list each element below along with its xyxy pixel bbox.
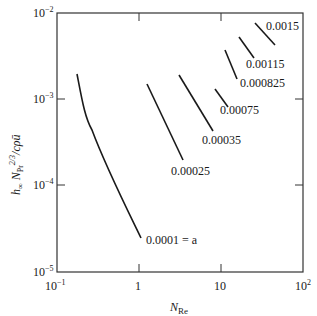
label-a: 0.0001 = a xyxy=(146,233,198,247)
curve-0.000825 xyxy=(225,50,237,79)
svg-text:h∞ NPr2/3/cρū: h∞ NPr2/3/cρū xyxy=(8,135,25,196)
label-0.0015: 0.0015 xyxy=(266,19,299,33)
x-tick-label-1e-1: 10−1 xyxy=(45,278,66,293)
y-tick-label-1e-2: 10−2 xyxy=(33,5,54,20)
x-tick-label-1: 1 xyxy=(135,279,141,293)
label-0.00115: 0.00115 xyxy=(246,57,285,71)
y-tick-label-1e-3: 10−3 xyxy=(33,91,54,106)
curve-0.00025 xyxy=(147,84,183,160)
x-tick-label-1e2: 102 xyxy=(295,278,311,293)
curve-0.00035 xyxy=(179,75,213,131)
label-0.00075: 0.00075 xyxy=(220,103,259,117)
chart: 10−2 10−3 10−4 10−5 10−1 1 10 102 NRe h∞… xyxy=(0,0,317,316)
x-tick-label-10: 10 xyxy=(214,279,226,293)
y-tick-label-1e-4: 10−4 xyxy=(33,177,54,192)
curve-a-0.0001 xyxy=(77,74,141,238)
y-axis-title: h∞ NPr2/3/cρū xyxy=(8,135,25,196)
label-0.00035: 0.00035 xyxy=(202,133,241,147)
label-0.00025: 0.00025 xyxy=(171,164,210,178)
curve-0.00115 xyxy=(239,37,254,58)
label-0.000825: 0.000825 xyxy=(240,76,285,90)
x-axis-title: NRe xyxy=(169,300,188,316)
y-tick-label-1e-5: 10−5 xyxy=(33,264,54,279)
